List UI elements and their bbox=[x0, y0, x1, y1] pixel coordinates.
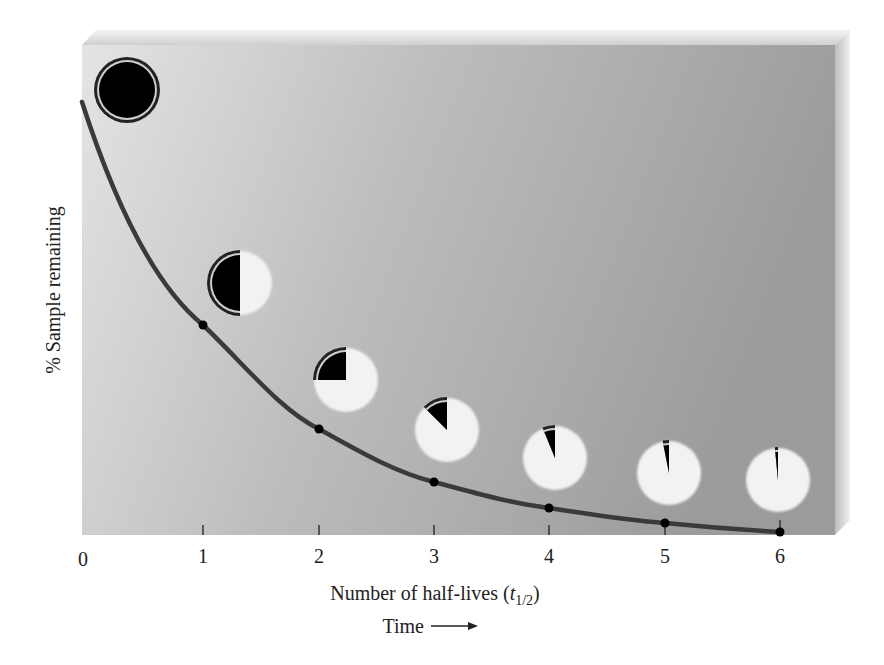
x-tick-label-6: 6 bbox=[775, 545, 785, 567]
panel-top-bevel bbox=[82, 30, 850, 45]
x-tick-labels: 0 1 2 3 4 5 6 bbox=[78, 545, 785, 570]
data-point-1 bbox=[199, 321, 208, 330]
pie-full bbox=[94, 57, 160, 123]
svg-text:Time: Time bbox=[382, 615, 424, 637]
half-life-decay-diagram: 0 1 2 3 4 5 6 Number of half-lives (t1/2… bbox=[0, 0, 884, 665]
arrow-right-icon bbox=[431, 622, 478, 630]
x-tick-label-4: 4 bbox=[544, 545, 554, 567]
data-point-5 bbox=[661, 519, 670, 528]
plot-panel bbox=[82, 30, 850, 535]
data-point-4 bbox=[545, 504, 554, 513]
y-axis-label: % Sample remaining bbox=[42, 206, 65, 374]
x-tick-label-3: 3 bbox=[429, 545, 439, 567]
x-tick-label-1: 1 bbox=[198, 545, 208, 567]
panel-face bbox=[82, 45, 835, 535]
x-tick-label-2: 2 bbox=[314, 545, 324, 567]
x-tick-label-0: 0 bbox=[78, 548, 88, 570]
x-axis-label: Number of half-lives (t1/2) bbox=[330, 582, 540, 608]
data-point-6 bbox=[776, 528, 785, 537]
data-point-3 bbox=[430, 478, 439, 487]
x-tick-label-5: 5 bbox=[660, 545, 670, 567]
data-point-2 bbox=[315, 425, 324, 434]
time-label: Time bbox=[382, 615, 478, 637]
panel-right-bevel bbox=[835, 30, 850, 535]
